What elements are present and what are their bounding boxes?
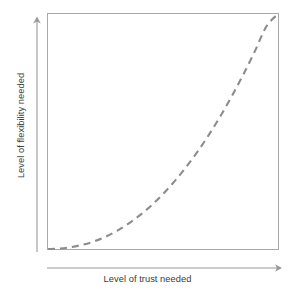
x-axis-title: Level of trust needed (0, 274, 295, 285)
y-axis-title: Level of flexibility needed (17, 72, 28, 177)
chart-container: Level of flexibility needed Level of tru… (0, 0, 295, 295)
plot-frame (48, 14, 279, 250)
x-axis-arrow (47, 264, 282, 272)
y-axis-title-wrap: Level of flexibility needed (0, 0, 44, 250)
chart-canvas (0, 0, 295, 295)
